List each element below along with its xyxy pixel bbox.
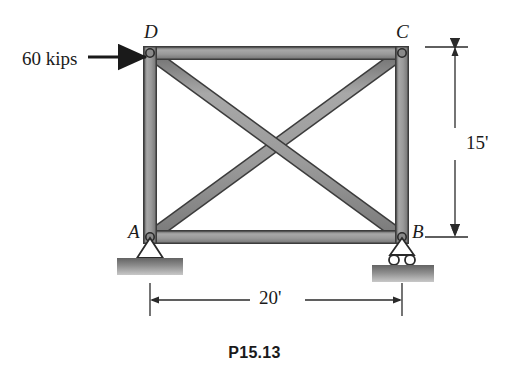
member-DC [150, 46, 402, 60]
load-label: 60 kips [22, 49, 77, 68]
dimension-label-height: 15' [466, 133, 488, 152]
joint-label-D: D [144, 22, 158, 41]
truss-figure: D C A B 60 kips 15' 20' P15.13 [0, 0, 509, 382]
joint-label-B: B [412, 222, 424, 241]
dimension-height [425, 47, 468, 237]
roller-support-B [372, 238, 434, 282]
joint-label-A: A [128, 222, 140, 241]
member-AD [143, 46, 157, 244]
joint-pin-C [398, 49, 406, 57]
member-BC [395, 46, 409, 244]
member-AB [150, 230, 402, 244]
dimension-label-width: 20' [259, 288, 281, 307]
figure-caption: P15.13 [0, 344, 509, 362]
joint-label-C: C [396, 22, 409, 41]
joint-pin-D [146, 49, 154, 57]
